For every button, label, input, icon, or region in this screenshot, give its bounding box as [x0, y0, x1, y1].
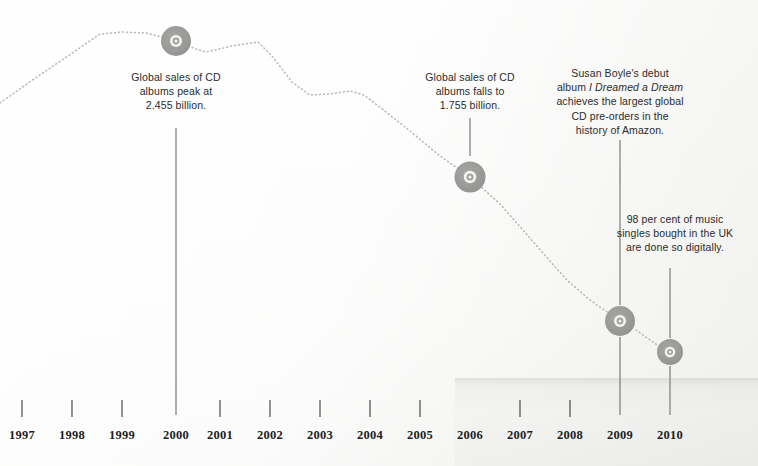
annotation-leader-lines	[176, 118, 670, 415]
year-label-2009: 2009	[597, 428, 643, 443]
annotation-digital-2010: 98 per cent of music singles bought in t…	[604, 212, 746, 255]
year-label-1999: 1999	[99, 428, 145, 443]
annotation-susan-boyle-line3: achieves the largest global	[545, 94, 695, 108]
year-label-1997: 1997	[0, 428, 45, 443]
cd-marker-2000[interactable]	[161, 26, 191, 56]
year-label-2003: 2003	[297, 428, 343, 443]
cd-marker-2010[interactable]	[657, 339, 683, 365]
year-label-2002: 2002	[247, 428, 293, 443]
annotation-peak-2000: Global sales of CD albums peak at 2.455 …	[106, 70, 246, 113]
annotation-susan-boyle-line1: Susan Boyle's debut	[545, 66, 695, 80]
annotation-fall-2006: Global sales of CD albums falls to 1.755…	[400, 70, 540, 113]
annotation-susan-boyle-line5: history of Amazon.	[545, 123, 695, 137]
annotation-peak-2000-line3: 2.455 billion.	[106, 98, 246, 112]
year-label-2010: 2010	[647, 428, 693, 443]
annotation-susan-boyle-line2: album I Dreamed a Dream	[545, 80, 695, 94]
year-label-2008: 2008	[547, 428, 593, 443]
annotation-peak-2000-line2: albums peak at	[106, 84, 246, 98]
annotation-digital-2010-line3: are done so digitally.	[604, 240, 746, 254]
year-label-2001: 2001	[197, 428, 243, 443]
annotation-susan-boyle-album-title: I Dreamed a Dream	[589, 81, 683, 93]
annotation-susan-boyle-line2-prefix: album	[557, 81, 589, 93]
annotation-fall-2006-line3: 1.755 billion.	[400, 98, 540, 112]
axis-tick-marks	[22, 400, 570, 417]
timeline-infographic: Global sales of CD albums peak at 2.455 …	[0, 0, 758, 466]
annotation-digital-2010-line2: singles bought in the UK	[604, 226, 746, 240]
cd-marker-2009[interactable]	[605, 306, 635, 336]
annotation-fall-2006-line2: albums falls to	[400, 84, 540, 98]
year-label-2000: 2000	[153, 428, 199, 443]
annotation-susan-boyle-2009: Susan Boyle's debut album I Dreamed a Dr…	[545, 66, 695, 137]
year-label-2006: 2006	[447, 428, 493, 443]
year-label-1998: 1998	[49, 428, 95, 443]
annotation-peak-2000-line1: Global sales of CD	[106, 70, 246, 84]
year-label-2005: 2005	[397, 428, 443, 443]
year-label-2004: 2004	[347, 428, 393, 443]
annotation-digital-2010-line1: 98 per cent of music	[604, 212, 746, 226]
annotation-fall-2006-line1: Global sales of CD	[400, 70, 540, 84]
cd-marker-2006[interactable]	[455, 162, 486, 193]
year-label-2007: 2007	[497, 428, 543, 443]
annotation-susan-boyle-line4: CD pre-orders in the	[545, 109, 695, 123]
